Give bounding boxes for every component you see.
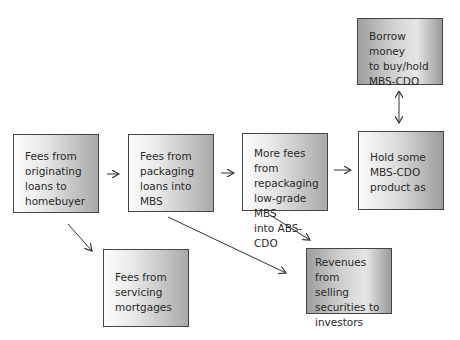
box-originating-fees: Fees from originating loans to homebuyer (13, 134, 99, 213)
arrow-originating-to-servicing (68, 224, 92, 251)
box-servicing-fees: Fees from servicing mortgages (103, 249, 189, 327)
box-borrow-label: Borrow money to buy/hold MBS-CDO (369, 29, 436, 89)
box-repackaging-fees: More fees from repackaging low-grade MBS… (242, 133, 328, 211)
box-revenues: Revenues from selling securities to inve… (306, 248, 392, 314)
box-revenues-label: Revenues from selling securities to inve… (315, 255, 385, 330)
box-repackaging-label: More fees from repackaging low-grade MBS… (254, 146, 321, 251)
box-packaging-fees: Fees from packaging loans into MBS (128, 134, 214, 212)
box-hold-label: Hold some MBS-CDO product as (370, 150, 437, 195)
box-originating-label: Fees from originating loans to homebuyer (25, 149, 92, 209)
box-hold-product: Hold some MBS-CDO product as (358, 131, 444, 210)
box-packaging-label: Fees from packaging loans into MBS (140, 149, 207, 209)
box-servicing-label: Fees from servicing mortgages (115, 270, 182, 315)
box-borrow-money: Borrow money to buy/hold MBS-CDO (357, 18, 443, 85)
